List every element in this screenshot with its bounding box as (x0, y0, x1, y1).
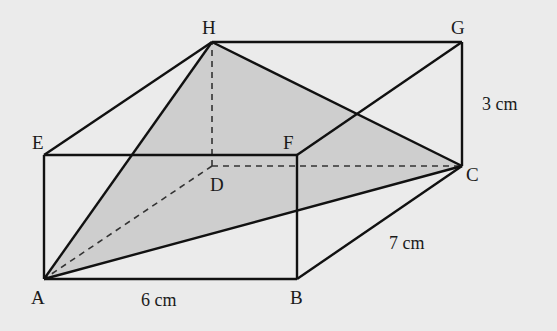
dimension-BC: 7 cm (389, 233, 425, 253)
vertex-label-G: G (451, 17, 465, 38)
vertex-label-B: B (290, 287, 303, 308)
vertex-label-H: H (202, 17, 216, 38)
diagram-canvas: H G E F D C A B 6 cm 7 cm 3 cm (0, 0, 557, 331)
cuboid-diagram: H G E F D C A B 6 cm 7 cm 3 cm (0, 0, 557, 331)
dimension-CG: 3 cm (482, 94, 518, 114)
dimension-AB: 6 cm (141, 290, 177, 310)
vertex-label-D: D (210, 174, 224, 195)
vertex-label-E: E (32, 132, 44, 153)
vertex-label-C: C (466, 164, 479, 185)
vertex-label-A: A (31, 287, 45, 308)
vertex-label-F: F (283, 132, 294, 153)
